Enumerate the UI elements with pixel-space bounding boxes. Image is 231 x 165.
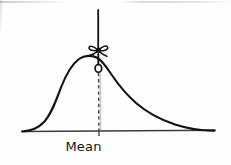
mean-axis-label: Mean	[0, 139, 199, 154]
x-axis-baseline	[23, 130, 216, 131]
figure-canvas: Mean	[0, 0, 231, 165]
density-curve	[22, 56, 215, 132]
hanging-ring	[95, 65, 102, 73]
